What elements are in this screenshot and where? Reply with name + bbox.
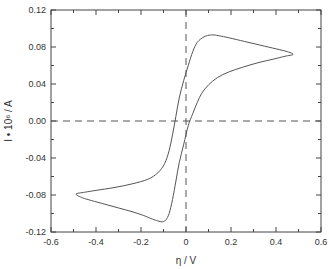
cv-curve: [76, 35, 293, 222]
y-tick-labels: -0.12-0.08-0.040.000.040.080.12: [25, 5, 46, 237]
y-tick-label: -0.08: [25, 190, 46, 200]
y-tick-label: 0.00: [28, 116, 46, 126]
cv-chart: -0.6-0.4-0.200.20.40.6 -0.12-0.08-0.040.…: [0, 0, 329, 269]
y-tick-label: 0.12: [28, 5, 46, 15]
x-tick-label: -0.6: [43, 237, 59, 247]
y-tick-label: -0.12: [25, 227, 46, 237]
x-tick-label: 0.4: [270, 237, 283, 247]
x-tick-label: -0.4: [88, 237, 104, 247]
series-layer: [76, 35, 293, 222]
y-tick-label: -0.04: [25, 153, 46, 163]
y-tick-label: 0.04: [28, 79, 46, 89]
x-axis-title: η / V: [176, 255, 197, 266]
x-tick-label: 0.2: [225, 237, 238, 247]
y-tick-label: 0.08: [28, 42, 46, 52]
x-tick-label: 0: [183, 237, 188, 247]
y-axis-title: I • 10⁶ / A: [3, 100, 14, 142]
x-tick-labels: -0.6-0.4-0.200.20.40.6: [43, 237, 327, 247]
x-tick-label: 0.6: [315, 237, 328, 247]
reference-lines: [51, 10, 321, 232]
x-tick-label: -0.2: [133, 237, 149, 247]
